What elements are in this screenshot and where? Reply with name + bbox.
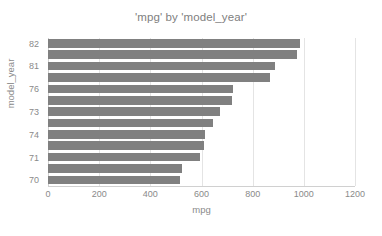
x-tick-label-400: 400: [143, 189, 158, 199]
bar-row: [48, 95, 355, 106]
bars-group: [48, 38, 355, 186]
bar[interactable]: [48, 141, 204, 150]
plot-area: [48, 38, 355, 186]
bar-row: [48, 84, 355, 95]
x-axis-line: [48, 186, 355, 187]
x-tick-label-1000: 1000: [294, 189, 314, 199]
bar[interactable]: [48, 96, 232, 105]
bar[interactable]: [48, 119, 213, 128]
bar-row: [48, 106, 355, 117]
bar-row: [48, 72, 355, 83]
chart-title: 'mpg' by 'model_year': [0, 11, 382, 23]
bar-row: [48, 175, 355, 186]
bar[interactable]: [48, 176, 180, 185]
x-tick-label-800: 800: [245, 189, 260, 199]
bar[interactable]: [48, 62, 275, 71]
y-tick-label-70: 70: [29, 175, 39, 185]
bar[interactable]: [48, 130, 205, 139]
bar-row: [48, 38, 355, 49]
x-axis-title: mpg: [48, 204, 355, 215]
x-tick-label-1200: 1200: [345, 189, 365, 199]
y-tick-label-76: 76: [29, 84, 39, 94]
bar[interactable]: [48, 39, 300, 48]
bar-row: [48, 152, 355, 163]
y-tick-label-73: 73: [29, 107, 39, 117]
x-tick-label-200: 200: [92, 189, 107, 199]
chart-container: 'mpg' by 'model_year' model_year 8281767…: [0, 0, 382, 236]
bar-row: [48, 163, 355, 174]
bar[interactable]: [48, 153, 200, 162]
y-tick-label-71: 71: [29, 153, 39, 163]
bar[interactable]: [48, 73, 270, 82]
bar[interactable]: [48, 107, 220, 116]
bar[interactable]: [48, 164, 182, 173]
bar[interactable]: [48, 50, 297, 59]
y-tick-label-74: 74: [29, 130, 39, 140]
y-axis-tick-labels: 82817673747170: [0, 38, 44, 186]
gridline-1200: [355, 38, 356, 186]
bar[interactable]: [48, 85, 233, 94]
x-axis-tick-labels: 020040060080010001200: [48, 189, 355, 203]
bar-row: [48, 118, 355, 129]
bar-row: [48, 129, 355, 140]
bar-row: [48, 49, 355, 60]
x-tick-label-0: 0: [45, 189, 50, 199]
y-tick-label-81: 81: [29, 61, 39, 71]
bar-row: [48, 61, 355, 72]
x-tick-label-600: 600: [194, 189, 209, 199]
y-tick-label-82: 82: [29, 39, 39, 49]
bar-row: [48, 140, 355, 151]
